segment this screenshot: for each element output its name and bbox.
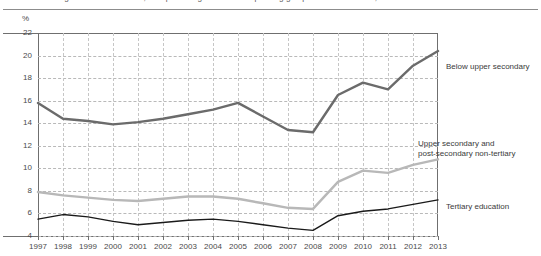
gridline-x-2005 bbox=[238, 33, 239, 236]
gridline-x-1999 bbox=[88, 33, 89, 236]
x-tick-2005 bbox=[238, 236, 239, 240]
x-tick-1998 bbox=[63, 236, 64, 240]
y-axis-unit-label: % bbox=[22, 14, 29, 23]
gridline-x-2004 bbox=[213, 33, 214, 236]
plot-top-axis bbox=[3, 33, 438, 34]
x-tick-2002 bbox=[163, 236, 164, 240]
x-tick-2001 bbox=[138, 236, 139, 240]
series-label-below-upper-secondary: Below upper secondary bbox=[446, 62, 530, 72]
x-tick-2004 bbox=[213, 236, 214, 240]
y-tick-label-16: 16 bbox=[2, 96, 32, 105]
y-tick-label-6: 6 bbox=[2, 208, 32, 217]
series-lines bbox=[0, 0, 541, 256]
gridline-x-2003 bbox=[188, 33, 189, 236]
plot-right-axis bbox=[437, 33, 438, 236]
gridline-x-2010 bbox=[363, 33, 364, 236]
y-tick-label-22: 22 bbox=[2, 28, 32, 37]
y-tick-label-12: 12 bbox=[2, 141, 32, 150]
series-label-upper-secondary-line1: Upper secondary and bbox=[418, 139, 495, 149]
x-tick-2008 bbox=[313, 236, 314, 240]
x-tick-2011 bbox=[388, 236, 389, 240]
chart-title: Average in OECD countries, as a percenta… bbox=[43, 0, 513, 3]
gridline-x-2007 bbox=[288, 33, 289, 236]
x-tick-1997 bbox=[38, 236, 39, 240]
y-tick-label-10: 10 bbox=[2, 163, 32, 172]
gridline-x-2002 bbox=[163, 33, 164, 236]
x-tick-2000 bbox=[113, 236, 114, 240]
y-tick-label-20: 20 bbox=[2, 51, 32, 60]
series-label-tertiary-education: Tertiary education bbox=[446, 202, 509, 212]
chart-figure: Average in OECD countries, as a percenta… bbox=[0, 0, 541, 256]
gridline-x-2001 bbox=[138, 33, 139, 236]
x-tick-2007 bbox=[288, 236, 289, 240]
x-tick-2012 bbox=[413, 236, 414, 240]
series-label-upper-secondary-line2: post-secondary non-tertiary bbox=[418, 149, 515, 159]
x-tick-2010 bbox=[363, 236, 364, 240]
gridline-x-2011 bbox=[388, 33, 389, 236]
x-tick-2006 bbox=[263, 236, 264, 240]
plot-left-axis bbox=[38, 33, 39, 236]
gridline-x-2012 bbox=[413, 33, 414, 236]
gridline-x-2000 bbox=[113, 33, 114, 236]
gridline-x-2006 bbox=[263, 33, 264, 236]
y-tick-label-8: 8 bbox=[2, 186, 32, 195]
y-tick-label-18: 18 bbox=[2, 73, 32, 82]
gridline-x-2008 bbox=[313, 33, 314, 236]
x-tick-1999 bbox=[88, 236, 89, 240]
x-tick-2003 bbox=[188, 236, 189, 240]
gridline-x-2009 bbox=[338, 33, 339, 236]
y-tick-label-14: 14 bbox=[2, 118, 32, 127]
x-tick-2009 bbox=[338, 236, 339, 240]
title-divider bbox=[3, 9, 538, 10]
y-tick-label-4: 4 bbox=[2, 231, 32, 240]
x-tick-label-2013: 2013 bbox=[421, 242, 455, 251]
gridline-x-1998 bbox=[63, 33, 64, 236]
x-tick-2013 bbox=[438, 236, 439, 240]
